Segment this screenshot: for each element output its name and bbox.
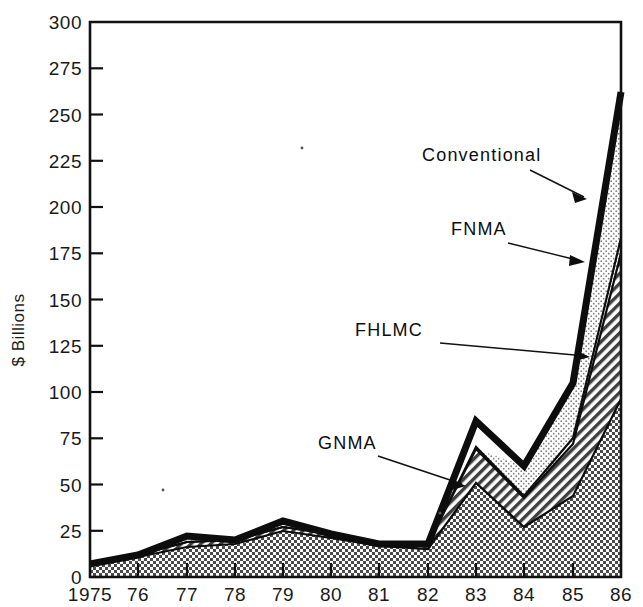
x-tick-label: 76 xyxy=(127,584,149,605)
x-tick-label: 85 xyxy=(562,584,584,605)
x-tick-label: 80 xyxy=(320,584,342,605)
y-tick-label: 75 xyxy=(60,428,82,449)
annotation-label-fhlmc: FHLMC xyxy=(355,320,423,340)
annotation-label-conventional: Conventional xyxy=(422,145,541,165)
y-tick-label: 50 xyxy=(60,475,82,496)
x-tick-label: 84 xyxy=(513,584,535,605)
annotation-leader-gnma xyxy=(378,456,462,484)
annotation-leader-fhlmc xyxy=(440,343,586,356)
y-tick-label: 150 xyxy=(49,290,82,311)
x-axis-labels: 1975 76 77 78 79 80 81 82 83 84 85 86 xyxy=(68,584,632,605)
y-tick-label: 200 xyxy=(49,197,82,218)
x-tick-label: 79 xyxy=(272,584,294,605)
annotation-arrow-fnma xyxy=(569,255,585,266)
annotation-leader-conventional xyxy=(530,170,584,197)
y-tick-label: 225 xyxy=(49,151,82,172)
y-axis-ticks xyxy=(90,68,103,577)
y-tick-label: 175 xyxy=(49,243,82,264)
x-tick-label: 1975 xyxy=(68,584,112,605)
y-axis-title: $ Billions xyxy=(9,293,28,366)
y-tick-label: 275 xyxy=(49,58,82,79)
y-tick-label: 250 xyxy=(49,105,82,126)
x-tick-label: 77 xyxy=(176,584,198,605)
x-tick-label: 86 xyxy=(610,584,632,605)
annotation-arrow-conventional xyxy=(572,192,587,203)
y-tick-label: 25 xyxy=(60,521,82,542)
x-tick-label: 78 xyxy=(224,584,246,605)
y-axis-labels: 0 25 50 75 100 125 150 175 200 225 250 2… xyxy=(49,12,82,588)
x-tick-label: 82 xyxy=(417,584,439,605)
annotation-label-fnma: FNMA xyxy=(451,219,507,239)
y-tick-label: 100 xyxy=(49,382,82,403)
y-tick-label: 125 xyxy=(49,336,82,357)
chart-figure: 0 25 50 75 100 125 150 175 200 225 250 2… xyxy=(0,0,643,607)
x-tick-label: 83 xyxy=(465,584,487,605)
chart-svg: 0 25 50 75 100 125 150 175 200 225 250 2… xyxy=(0,0,643,607)
annotation-label-gnma: GNMA xyxy=(318,433,377,453)
x-tick-label: 81 xyxy=(368,584,390,605)
y-tick-label: 300 xyxy=(49,12,82,33)
